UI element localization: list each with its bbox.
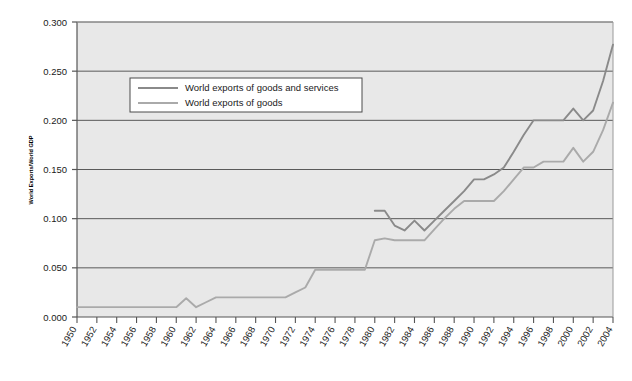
x-axis-tick-label: 1964 — [198, 325, 218, 349]
chart-legend: World exports of goods and services Worl… — [130, 78, 362, 112]
x-axis-tick-label: 1960 — [158, 325, 178, 349]
x-axis-tick-label: 2000 — [555, 325, 575, 349]
legend-label-goods-and-services: World exports of goods and services — [185, 82, 339, 93]
x-axis-tick-label: 1972 — [277, 325, 297, 349]
x-axis-tick-label: 1966 — [217, 325, 237, 349]
y-axis-tick-label: 0.050 — [43, 262, 67, 273]
x-axis-tick-label: 1984 — [396, 325, 416, 349]
x-axis-tick-label: 1990 — [456, 325, 476, 349]
x-axis-tick-label: 1994 — [495, 325, 515, 349]
x-axis-tick-label: 1982 — [376, 325, 396, 349]
x-axis-tick-label: 1970 — [257, 325, 277, 349]
y-axis-tick-label: 0.250 — [43, 66, 67, 77]
x-axis-tick-label: 1998 — [535, 325, 555, 349]
chart-container: 0.0000.0500.1000.1500.2000.2500.300 1950… — [0, 0, 632, 381]
y-axis-tick-label: 0.300 — [43, 17, 67, 28]
y-axis-tick-label: 0.200 — [43, 115, 67, 126]
x-axis-tick-label: 1978 — [337, 325, 357, 349]
x-axis-tick-label: 1974 — [297, 325, 317, 349]
y-axis-tick-label: 0.150 — [43, 164, 67, 175]
x-axis-tick-label: 1980 — [356, 325, 376, 349]
x-axis-ticks — [77, 317, 613, 323]
x-axis-tick-label: 1958 — [138, 325, 158, 349]
x-axis-tick-label: 1952 — [78, 325, 98, 349]
x-axis-tick-label: 1950 — [59, 325, 79, 349]
legend-label-goods: World exports of goods — [185, 97, 283, 108]
y-axis-tick-label: 0.100 — [43, 213, 67, 224]
y-axis-tick-label: 0.000 — [43, 312, 67, 323]
x-axis-tick-label: 1956 — [118, 325, 138, 349]
line-chart: 0.0000.0500.1000.1500.2000.2500.300 1950… — [0, 0, 632, 381]
y-axis-ticks — [72, 22, 77, 317]
x-axis-tick-label: 1986 — [416, 325, 436, 349]
y-axis-tick-labels: 0.0000.0500.1000.1500.2000.2500.300 — [43, 17, 67, 323]
y-axis-title: World Exports/World GDP — [28, 135, 34, 204]
x-axis-tick-label: 1968 — [237, 325, 257, 349]
x-axis-tick-label: 1988 — [436, 325, 456, 349]
x-axis-tick-label: 2004 — [595, 325, 615, 349]
x-axis-tick-label: 1976 — [317, 325, 337, 349]
x-axis-tick-label: 1996 — [515, 325, 535, 349]
x-axis-tick-label: 1954 — [98, 325, 118, 349]
x-axis-tick-label: 1992 — [476, 325, 496, 349]
x-axis-tick-label: 2002 — [575, 325, 595, 349]
x-axis-tick-label: 1962 — [178, 325, 198, 349]
x-axis-tick-labels: 1950195219541956195819601962196419661968… — [59, 325, 615, 349]
